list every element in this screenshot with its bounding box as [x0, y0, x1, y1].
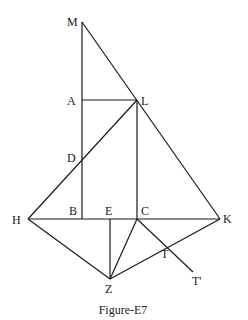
segment-MK: [82, 22, 220, 219]
label-B: B: [69, 204, 77, 218]
segment-CZ: [110, 219, 137, 279]
segment-HZ: [28, 219, 110, 279]
segment-CT-prime: [137, 219, 193, 272]
point-labels: M A L D H B E C K Z T T': [12, 15, 232, 296]
label-M: M: [67, 15, 78, 29]
label-D: D: [67, 151, 76, 165]
label-T: T: [161, 247, 169, 261]
label-K: K: [223, 212, 232, 226]
label-T-prime: T': [192, 274, 202, 288]
segments: [28, 22, 220, 279]
label-L: L: [141, 94, 148, 108]
label-Z: Z: [105, 282, 112, 296]
geometry-figure: M A L D H B E C K Z T T' Figure-E7: [0, 0, 248, 320]
label-H: H: [12, 213, 21, 227]
label-A: A: [67, 94, 76, 108]
label-E: E: [105, 204, 112, 218]
figure-caption: Figure-E7: [99, 303, 148, 317]
label-C: C: [141, 204, 149, 218]
